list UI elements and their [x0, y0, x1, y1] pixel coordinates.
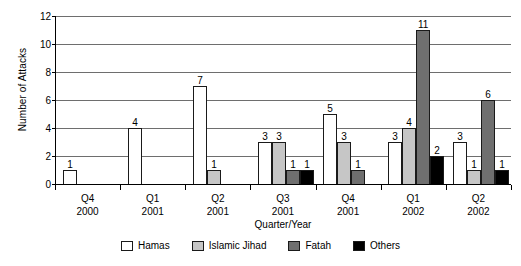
legend-label: Others: [370, 240, 400, 251]
bar-group: 3161: [446, 16, 511, 184]
bar-group: 34112: [381, 16, 446, 184]
x-tick-label-quarter: Q3: [250, 192, 315, 205]
plot-area: 024681012 14713311531341123161: [55, 16, 511, 185]
bar: 1: [300, 170, 314, 184]
bar-group-bars: 3161: [453, 16, 509, 184]
y-tick-label: 12: [40, 11, 51, 22]
bar-group-bars: 34112: [388, 16, 444, 184]
x-tick-mark: [316, 185, 317, 190]
legend: HamasIslamic JihadFatahOthers: [0, 240, 521, 251]
x-tick-label-year: 2001: [120, 205, 185, 218]
x-tick-mark: [55, 185, 56, 190]
y-tick-label: 10: [40, 39, 51, 50]
bar-group: 3311: [251, 16, 316, 184]
legend-label: Islamic Jihad: [209, 240, 267, 251]
legend-label: Fatah: [305, 240, 331, 251]
x-tick-label-quarter: Q2: [446, 192, 511, 205]
bar: 3: [272, 142, 286, 184]
bar-value-label: 3: [392, 131, 398, 142]
bar-value-label: 1: [499, 159, 505, 170]
bar: 1: [495, 170, 509, 184]
legend-swatch: [192, 241, 204, 251]
bar-value-label: 3: [457, 131, 463, 142]
x-tick-label: Q22001: [185, 192, 250, 218]
bar-group: 531: [316, 16, 381, 184]
bar: 3: [388, 142, 402, 184]
bar-group-bars: 71: [193, 16, 221, 184]
x-tick-label-year: 2001: [250, 205, 315, 218]
x-tick-mark: [446, 185, 447, 190]
bar: 3: [453, 142, 467, 184]
x-tick-label-quarter: Q1: [120, 192, 185, 205]
bar-value-label: 6: [485, 89, 491, 100]
legend-item: Islamic Jihad: [192, 240, 267, 251]
bar-value-label: 5: [327, 103, 333, 114]
bar-value-label: 2: [434, 145, 440, 156]
bar-value-label: 1: [290, 159, 296, 170]
bar: 1: [207, 170, 221, 184]
bar-group-bars: 4: [128, 16, 142, 184]
bar-value-label: 4: [406, 117, 412, 128]
x-tick-label: Q32001: [250, 192, 315, 218]
attacks-by-group-bar-chart: Number of Attacks 024681012 147133115313…: [0, 0, 521, 266]
x-tick-label-year: 2000: [55, 205, 120, 218]
x-tick-mark: [250, 185, 251, 190]
bar-value-label: 1: [67, 159, 73, 170]
x-tick-label-year: 2001: [185, 205, 250, 218]
bar: 1: [351, 170, 365, 184]
bar-value-label: 3: [262, 131, 268, 142]
bar: 2: [430, 156, 444, 184]
bar-value-label: 3: [341, 131, 347, 142]
legend-label: Hamas: [138, 240, 170, 251]
bar: 4: [402, 128, 416, 184]
x-tick-label: Q12001: [120, 192, 185, 218]
x-tick-label-year: 2001: [316, 205, 381, 218]
x-axis-labels: Q42000Q12001Q22001Q32001Q42001Q12002Q220…: [55, 192, 511, 218]
y-tick-label: 8: [45, 67, 51, 78]
bar-group: 1: [56, 16, 121, 184]
legend-item: Fatah: [288, 240, 331, 251]
bar: 1: [63, 170, 77, 184]
bar-value-label: 3: [276, 131, 282, 142]
legend-item: Others: [353, 240, 400, 251]
x-tick-label: Q22002: [446, 192, 511, 218]
bar-value-label: 7: [197, 75, 203, 86]
y-tick-label: 2: [45, 151, 51, 162]
bar-value-label: 1: [355, 159, 361, 170]
bar: 11: [416, 30, 430, 184]
x-tick-mark: [185, 185, 186, 190]
bar-value-label: 11: [418, 19, 428, 30]
bar: 5: [323, 114, 337, 184]
x-tick-label-year: 2002: [446, 205, 511, 218]
bar: 3: [258, 142, 272, 184]
x-tick-label-quarter: Q4: [316, 192, 381, 205]
x-axis-title: Quarter/Year: [55, 219, 511, 230]
x-tick-mark: [381, 185, 382, 190]
x-tick-label-quarter: Q4: [55, 192, 120, 205]
bar-value-label: 4: [132, 117, 138, 128]
bar-groups: 14713311531341123161: [56, 16, 511, 184]
legend-swatch: [353, 241, 365, 251]
y-tick-label: 4: [45, 123, 51, 134]
bar: 6: [481, 100, 495, 184]
x-tick-label: Q12002: [381, 192, 446, 218]
bar-group-bars: 1: [63, 16, 77, 184]
x-tick-label: Q42001: [316, 192, 381, 218]
y-axis-title: Number of Attacks: [17, 10, 28, 170]
x-axis-ticks: [55, 185, 511, 191]
legend-swatch: [121, 241, 133, 251]
bar-value-label: 1: [211, 159, 217, 170]
x-tick-mark: [120, 185, 121, 190]
bar-group: 4: [121, 16, 186, 184]
y-tick-label: 6: [45, 95, 51, 106]
x-tick-label-quarter: Q2: [185, 192, 250, 205]
x-tick-label-year: 2002: [381, 205, 446, 218]
bar-group: 71: [186, 16, 251, 184]
bar: 7: [193, 86, 207, 184]
x-tick-mark: [511, 185, 512, 190]
bar-group-bars: 3311: [258, 16, 314, 184]
bar-value-label: 1: [471, 159, 477, 170]
x-tick-label-quarter: Q1: [381, 192, 446, 205]
bar-value-label: 1: [304, 159, 310, 170]
bar: 1: [286, 170, 300, 184]
